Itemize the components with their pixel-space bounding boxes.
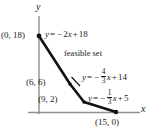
eq3-sign: − xyxy=(99,93,106,103)
vertex-label-0-18: (0, 18) xyxy=(1,31,25,40)
y-axis-label: y xyxy=(36,2,40,12)
feasible-set-annotation: feasible set xyxy=(64,49,102,58)
equation-label-line-2: y=−43x+14 xyxy=(82,68,127,85)
eq2-fraction: 43 xyxy=(101,68,107,85)
vertex-dot-0-18 xyxy=(37,34,42,39)
eq1-intercept: 18 xyxy=(79,29,88,39)
vertex-dot-9-2 xyxy=(82,100,85,103)
eq2-denominator: 3 xyxy=(101,76,107,85)
graph-canvas xyxy=(0,0,157,132)
eq3-fraction: 13 xyxy=(107,89,113,106)
vertex-dot-15-0 xyxy=(114,110,118,114)
feasible-set-figure: y x (0, 18) (6, 6) (9, 2) (15, 0) feasib… xyxy=(0,0,157,132)
equation-label-line-3: y=−13x+5 xyxy=(88,89,128,106)
eq2-numerator: 4 xyxy=(101,68,107,76)
eq2-intercept: 14 xyxy=(118,72,127,82)
vertex-dot-6-6 xyxy=(68,82,71,85)
eq2-plus: + xyxy=(111,72,118,82)
eq3-plus: + xyxy=(117,93,124,103)
vertex-label-9-2: (9, 2) xyxy=(38,95,58,104)
x-axis-label: x xyxy=(141,104,145,114)
leader-line-to-line2 xyxy=(72,77,81,86)
eq2-sign: − xyxy=(93,72,100,82)
eq3-denominator: 3 xyxy=(107,97,113,106)
eq1-plus: + xyxy=(72,29,79,39)
vertex-label-6-6: (6, 6) xyxy=(26,78,46,87)
vertex-label-15-0: (15, 0) xyxy=(95,118,119,127)
equation-label-line-1: y=−2x+18 xyxy=(45,30,88,39)
eq3-intercept: 5 xyxy=(124,93,129,103)
eq3-numerator: 1 xyxy=(107,89,113,97)
